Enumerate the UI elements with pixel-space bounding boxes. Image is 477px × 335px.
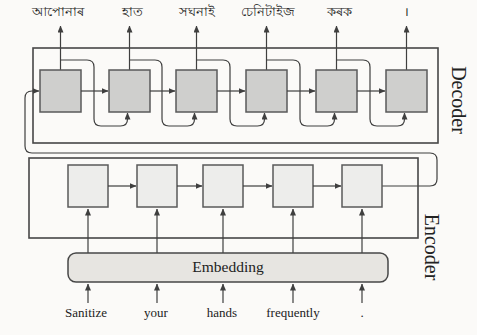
- encoder-cell: [203, 165, 243, 207]
- output-word: সঘনাই: [178, 4, 216, 19]
- input-word: frequently: [266, 305, 320, 320]
- decoder-cell: [386, 70, 427, 112]
- input-word: your: [144, 305, 169, 320]
- input-word-labels: Sanitize your hands frequently .: [65, 305, 364, 320]
- encoder-label: Encoder: [421, 214, 443, 281]
- output-word: হাত: [121, 5, 143, 19]
- input-word: .: [360, 305, 363, 320]
- decoder-cell: [40, 70, 81, 112]
- encoder-cell: [68, 165, 108, 207]
- encoder-cell: [342, 165, 382, 207]
- output-word: কৰক: [326, 5, 353, 19]
- input-word: hands: [207, 305, 237, 320]
- input-to-embedding-arrows: [88, 284, 362, 303]
- decoder-output-labels: আপোনাৰ হাত সঘনাই চেনিটাইজ কৰক ।: [31, 4, 409, 19]
- diagram-svg: আপোনাৰ হাত সঘনাই চেনিটাইজ কৰক । Decoder: [0, 0, 477, 335]
- output-word: ।: [404, 5, 409, 19]
- decoder-cell: [316, 70, 357, 112]
- input-word: Sanitize: [65, 305, 107, 320]
- decoder-label: Decoder: [448, 66, 470, 134]
- embedding-to-encoder-arrows: [88, 209, 362, 253]
- decoder-cell: [246, 70, 287, 112]
- seq2seq-diagram: আপোনাৰ হাত সঘনাই চেনিটাইজ কৰক । Decoder: [0, 0, 477, 335]
- decoder-cell: [176, 70, 217, 112]
- output-word: চেনিটাইজ: [241, 4, 295, 19]
- output-word: আপোনাৰ: [31, 5, 85, 19]
- decoder-cell: [109, 70, 150, 112]
- encoder-cell: [137, 165, 177, 207]
- embedding-label: Embedding: [192, 258, 264, 275]
- encoder-cell: [273, 165, 313, 207]
